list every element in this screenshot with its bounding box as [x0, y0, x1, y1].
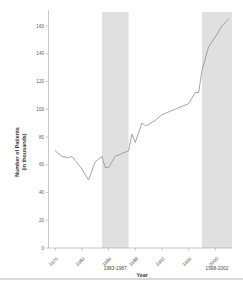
y-tick-label: 60: [39, 162, 45, 167]
y-axis-title: Number of Patients (in thousands): [14, 127, 27, 176]
y-axis-title-line2: (in thousands): [21, 133, 27, 170]
band-labels-group: 1983-19871998-2002: [104, 266, 229, 271]
line-chart: 020406080100120140160 197619801984198819…: [0, 0, 243, 286]
shaded-band-2: [202, 12, 232, 248]
x-axis-ticks: 1976198019841988199219962000: [48, 248, 219, 267]
band-label-1: 1983-1987: [104, 266, 127, 271]
x-tick-label: 1988: [128, 256, 139, 267]
band-label-2: 1998-2002: [206, 266, 229, 271]
x-tick-label: 1992: [155, 256, 166, 267]
y-axis-title-line1: Number of Patients: [14, 127, 20, 176]
y-tick-label: 40: [39, 190, 45, 195]
shaded-bands-group: [102, 12, 232, 248]
y-tick-label: 100: [36, 107, 44, 112]
y-tick-label: 160: [36, 24, 44, 29]
shaded-band-1: [102, 12, 129, 248]
y-tick-label: 0: [41, 246, 44, 251]
x-tick-label: 1976: [48, 256, 59, 267]
x-tick-label: 1980: [75, 256, 86, 267]
y-tick-label: 20: [39, 218, 45, 223]
y-tick-label: 140: [36, 51, 44, 56]
y-tick-label: 80: [39, 135, 45, 140]
y-axis-ticks: 020406080100120140160: [36, 24, 48, 251]
y-tick-label: 120: [36, 79, 44, 84]
x-tick-label: 1996: [181, 256, 192, 267]
chart-figure: 020406080100120140160 197619801984198819…: [0, 0, 243, 286]
bottom-divider: [0, 278, 243, 280]
